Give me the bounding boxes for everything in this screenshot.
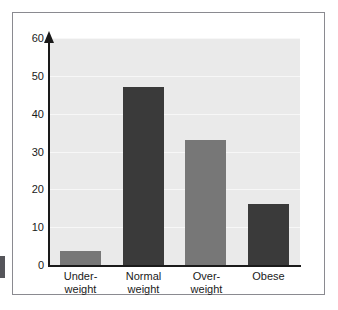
x-axis-tick-label-line: weight (49, 283, 112, 296)
y-axis-tick-labels: 0102030405060 (0, 0, 44, 310)
x-axis-tick-label: Normalweight (112, 270, 175, 296)
gridline (49, 189, 300, 190)
x-axis-line (48, 265, 301, 267)
bar (60, 251, 101, 265)
x-axis-tick-label-line: Normal (126, 270, 161, 282)
x-axis-tick-labels: Under-weightNormalweightOver-weightObese (49, 270, 300, 306)
bar (123, 87, 164, 265)
x-axis-tick-label-line: weight (175, 283, 238, 296)
y-axis-tick-label: 10 (4, 222, 44, 233)
x-axis-tick-label-line: Over- (193, 270, 221, 282)
gridline (49, 114, 300, 115)
x-axis-tick-label: Over-weight (175, 270, 238, 296)
y-axis-tick-label: 60 (4, 33, 44, 44)
y-axis-line (48, 41, 50, 266)
gridline (49, 152, 300, 153)
y-axis-tick-label: 50 (4, 71, 44, 82)
x-axis-tick-label-line: weight (112, 283, 175, 296)
x-axis-tick-label: Obese (237, 270, 300, 283)
y-axis-tick-label: 40 (4, 109, 44, 120)
x-axis-tick-label: Under-weight (49, 270, 112, 296)
bar (185, 140, 226, 265)
figure-root: 0102030405060 Under-weightNormalweightOv… (0, 0, 338, 310)
gridline (49, 76, 300, 77)
gridline (49, 38, 300, 39)
x-axis-tick-label-line: Under- (64, 270, 98, 282)
x-axis-tick-label-line: Obese (252, 270, 284, 282)
y-axis-tick-label: 30 (4, 147, 44, 158)
plot-area (49, 38, 300, 265)
bar (248, 204, 289, 265)
y-axis-tick-label: 0 (4, 260, 44, 271)
y-axis-tick-label: 20 (4, 184, 44, 195)
